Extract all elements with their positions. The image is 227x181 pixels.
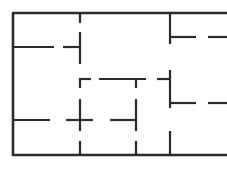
floor-plan-canvas <box>0 0 227 181</box>
floor-plan-drawing <box>0 0 227 181</box>
interior-walls-group <box>13 13 227 155</box>
exterior-walls-group <box>12 13 227 156</box>
